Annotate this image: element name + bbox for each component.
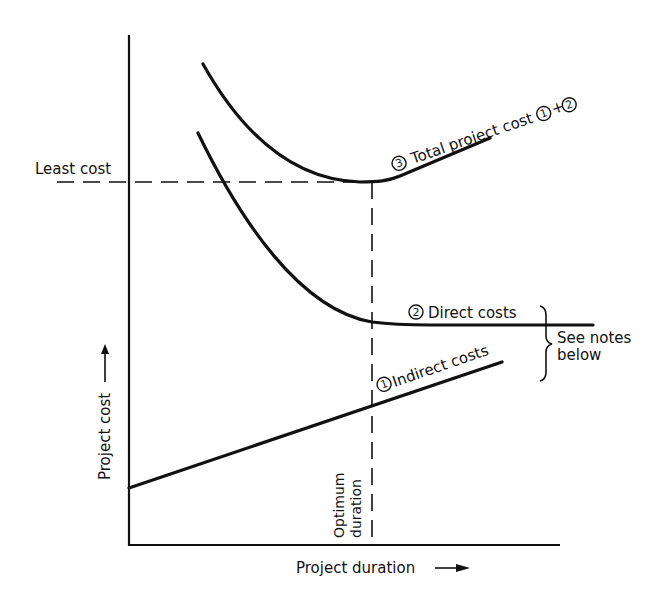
total-cost-curve <box>203 64 490 182</box>
least-cost-label: Least cost <box>35 160 111 178</box>
svg-text:duration: duration <box>348 479 364 538</box>
svg-text:Total project cost: Total project cost <box>407 109 535 168</box>
svg-text:below: below <box>557 346 601 364</box>
notes-brace <box>540 306 552 381</box>
svg-text:2: 2 <box>413 306 420 319</box>
cost-duration-diagram: Project cost Project duration Least cost… <box>0 0 667 612</box>
see-notes-label: See notes below <box>557 329 632 364</box>
svg-text:Optimum: Optimum <box>331 473 347 538</box>
optimum-duration-label: Optimum duration <box>331 473 364 538</box>
total-cost-label: 3 Total project cost 1 + 2 <box>389 93 579 174</box>
x-axis-label-group: Project duration <box>296 559 470 577</box>
x-axis-label: Project duration <box>296 559 415 577</box>
indirect-cost-line <box>129 362 502 488</box>
y-axis-label: Project cost <box>96 393 114 480</box>
y-axis-arrow-icon <box>101 344 109 354</box>
x-axis-arrow-icon <box>456 564 470 572</box>
indirect-cost-label: 1 Indirect costs <box>375 341 491 396</box>
direct-cost-label: 2 Direct costs <box>409 304 517 322</box>
svg-text:Direct costs: Direct costs <box>428 304 517 322</box>
svg-text:See notes: See notes <box>557 329 632 347</box>
y-axis-label-group: Project cost <box>96 344 114 480</box>
